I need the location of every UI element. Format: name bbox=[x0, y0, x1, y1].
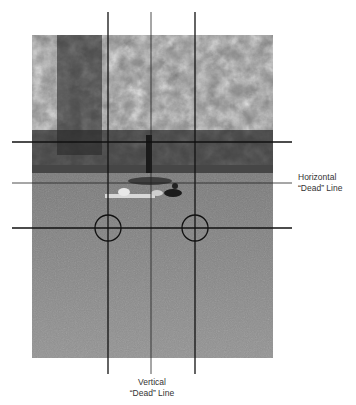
horizontal-dead-line-label: Horizontal “Dead” Line bbox=[298, 172, 342, 194]
park-photo bbox=[32, 35, 273, 358]
vertical-dead-line-label: Vertical “Dead” Line bbox=[110, 377, 194, 399]
vertical-label-line1: Vertical bbox=[110, 377, 194, 388]
horizontal-label-line1: Horizontal bbox=[298, 172, 342, 183]
horizontal-label-line2: “Dead” Line bbox=[298, 183, 342, 194]
park-scene-illustration bbox=[32, 35, 273, 358]
vertical-label-line2: “Dead” Line bbox=[110, 388, 194, 399]
